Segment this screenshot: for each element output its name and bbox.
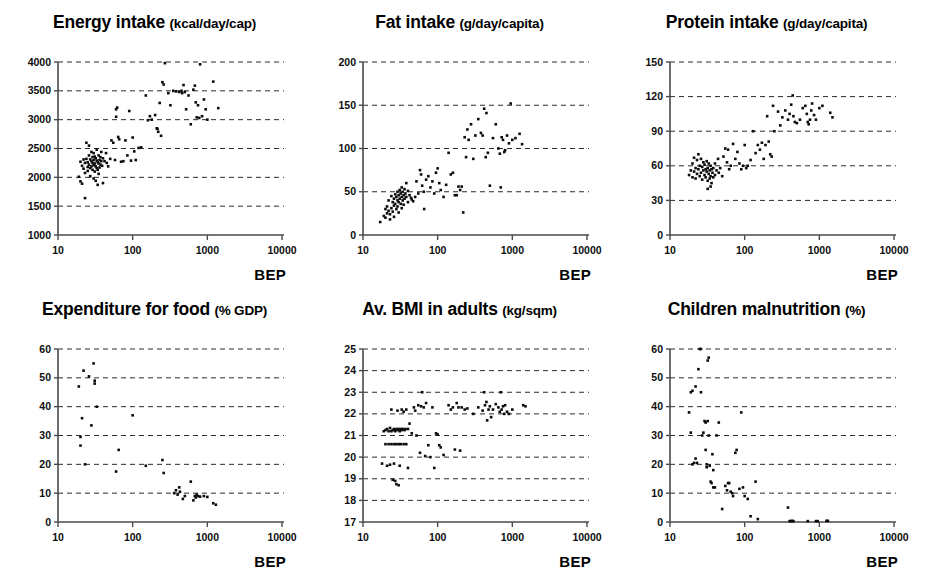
gridlines (363, 349, 589, 500)
data-point (393, 197, 396, 200)
data-point (701, 178, 704, 181)
data-point (518, 133, 521, 136)
data-point (746, 498, 749, 501)
y-tick-label: 1000 (28, 229, 52, 241)
data-point (474, 134, 477, 137)
x-axis-name-children-malnutrition: BEP (866, 553, 898, 570)
data-point (728, 168, 731, 171)
data-point (178, 91, 181, 94)
data-point (708, 464, 711, 467)
data-point (90, 151, 93, 154)
data-point (694, 385, 697, 388)
data-point (109, 158, 112, 161)
y-tick-label: 150 (645, 56, 663, 68)
data-point (424, 455, 427, 458)
data-point (810, 109, 813, 112)
x-axis: 10100100010000 (357, 522, 602, 543)
data-point (90, 165, 93, 168)
data-point (161, 81, 164, 84)
data-point (706, 179, 709, 182)
data-point (154, 114, 157, 117)
data-point (405, 182, 408, 185)
data-point (487, 408, 490, 411)
plot-area-protein-intake: 030609012015010100100010000BEP (612, 0, 921, 289)
data-point (387, 199, 390, 202)
y-axis: 0102030405060 (39, 343, 58, 528)
data-point (396, 205, 399, 208)
data-point (162, 83, 165, 86)
data-point (407, 201, 410, 204)
data-point (184, 495, 187, 498)
data-point (436, 433, 439, 436)
data-point (486, 419, 489, 422)
data-point (394, 480, 397, 483)
data-point (147, 119, 150, 122)
data-point (489, 184, 492, 187)
data-point (137, 147, 140, 150)
y-tick-label: 30 (651, 194, 663, 206)
data-point (707, 434, 710, 437)
data-point (405, 443, 408, 446)
x-axis: 10100100010000 (664, 235, 909, 256)
panel-av-bmi-in-adults: Av. BMI in adults (kg/sqm)17181920212223… (305, 287, 614, 576)
data-point (81, 182, 84, 185)
data-point (92, 362, 95, 365)
data-point (86, 161, 89, 164)
data-point (199, 63, 202, 66)
data-point (88, 375, 91, 378)
data-point (815, 118, 818, 121)
data-point (691, 176, 694, 179)
x-tick-label: 1000 (808, 244, 832, 256)
data-point (804, 105, 807, 108)
data-point (492, 137, 495, 140)
data-point (452, 406, 455, 409)
data-point (829, 111, 832, 114)
data-point (88, 144, 91, 147)
data-point (467, 139, 470, 142)
data-point (175, 90, 178, 93)
data-point (704, 449, 707, 452)
y-axis: 0306090120150 (645, 56, 670, 241)
data-point (391, 201, 394, 204)
data-point (84, 463, 87, 466)
data-point (404, 428, 407, 431)
data-point (698, 175, 701, 178)
data-point (709, 175, 712, 178)
data-point (391, 479, 394, 482)
data-point (192, 499, 195, 502)
data-point (412, 200, 415, 203)
data-point (707, 356, 710, 359)
data-point (419, 452, 422, 455)
data-point (100, 160, 103, 163)
data-point (395, 196, 398, 199)
y-tick-label: 1500 (28, 200, 52, 212)
data-point (184, 91, 187, 94)
data-point (82, 167, 85, 170)
data-point (717, 158, 720, 161)
data-point (414, 196, 417, 199)
data-point (500, 136, 503, 139)
x-tick-label: 100 (736, 531, 754, 543)
panel-expenditure-for-food: Expenditure for food (% GDP)010203040506… (0, 287, 309, 576)
data-point (115, 115, 118, 118)
data-point (107, 165, 110, 168)
y-tick-label: 150 (338, 99, 356, 111)
data-point (386, 464, 389, 467)
gridlines (58, 349, 284, 493)
x-tick-label: 1000 (196, 244, 220, 256)
data-point (766, 115, 769, 118)
data-point (702, 161, 705, 164)
data-point (425, 402, 428, 405)
data-point (697, 368, 700, 371)
gridlines (670, 62, 896, 200)
data-point (217, 107, 220, 110)
data-point (807, 123, 810, 126)
panel-children-malnutrition: Children malnutrition (%)010203040506010… (612, 287, 921, 576)
x-tick-label: 10 (357, 244, 369, 256)
y-axis: 050100150200 (338, 56, 363, 241)
data-point (447, 404, 450, 407)
data-point (134, 159, 137, 162)
data-point (706, 167, 709, 170)
y-tick-label: 100 (338, 142, 356, 154)
y-tick-label: 40 (39, 400, 51, 412)
